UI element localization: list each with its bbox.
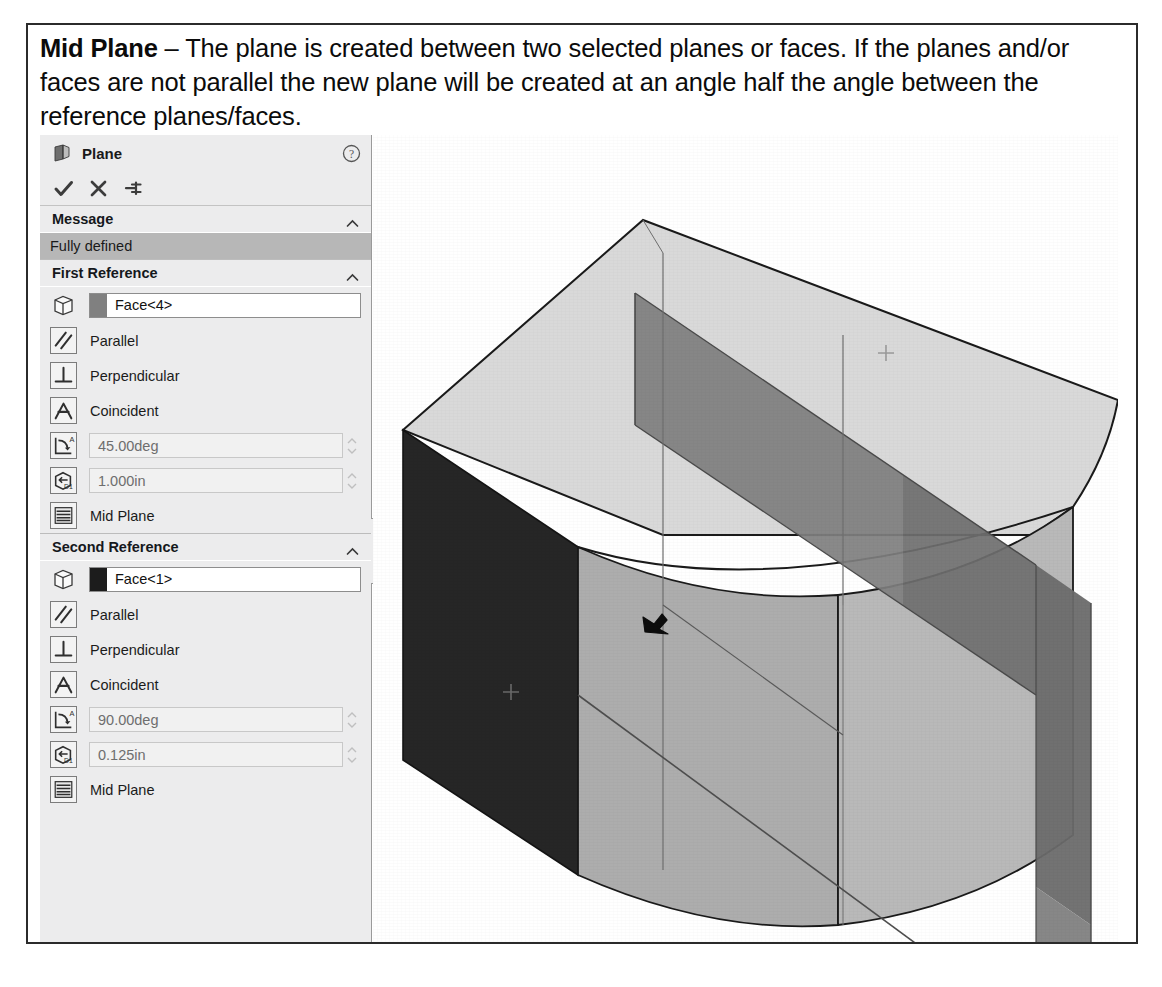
svg-text:A: A xyxy=(69,435,74,444)
plane-icon xyxy=(52,143,72,163)
section-header-second-reference[interactable]: Second Reference xyxy=(40,534,371,561)
scanned-page-frame: Mid Plane – The plane is created between… xyxy=(26,23,1138,944)
mid-plane-icon xyxy=(50,502,77,529)
angle-icon: A xyxy=(50,432,77,459)
first-reference-coincident-row[interactable]: Coincident xyxy=(40,393,371,428)
perpendicular-icon xyxy=(50,362,77,389)
second-reference-angle-row: A 90.00deg xyxy=(40,702,371,737)
first-reference-perpendicular-label: Perpendicular xyxy=(90,368,179,384)
offset-distance-icon: D1 xyxy=(50,741,77,768)
solid-left-dark-face xyxy=(403,430,578,875)
caption-body: The plane is created between two selecte… xyxy=(40,34,1069,130)
second-reference-parallel-label: Parallel xyxy=(90,607,138,623)
section-title-message: Message xyxy=(52,211,113,227)
section-header-first-reference[interactable]: First Reference xyxy=(40,260,371,287)
first-reference-coincident-label: Coincident xyxy=(90,403,159,419)
selection-color-swatch xyxy=(90,568,107,591)
first-reference-face-value: Face<4> xyxy=(107,297,172,313)
first-reference-angle-row: A 45.00deg xyxy=(40,428,371,463)
help-question-icon[interactable]: ? xyxy=(342,144,361,163)
panel-title: Plane xyxy=(82,145,122,162)
second-reference-parallel-row[interactable]: Parallel xyxy=(40,597,371,632)
second-reference-coincident-label: Coincident xyxy=(90,677,159,693)
perpendicular-icon xyxy=(50,636,77,663)
first-reference-angle-spinner[interactable] xyxy=(345,433,361,458)
first-reference-selection-row: Face<4> xyxy=(40,287,371,323)
first-reference-mid-plane-label: Mid Plane xyxy=(90,508,154,524)
svg-text:?: ? xyxy=(349,147,354,159)
first-reference-parallel-row[interactable]: Parallel xyxy=(40,323,371,358)
second-reference-perpendicular-row[interactable]: Perpendicular xyxy=(40,632,371,667)
solid-front-face xyxy=(578,547,838,926)
section-title-second-reference: Second Reference xyxy=(52,539,179,555)
coincident-icon xyxy=(50,671,77,698)
pushpin-icon[interactable] xyxy=(123,178,144,199)
second-reference-perpendicular-label: Perpendicular xyxy=(90,642,179,658)
chevron-up-icon[interactable] xyxy=(346,269,359,278)
chevron-up-icon[interactable] xyxy=(346,543,359,552)
second-reference-angle-spinner[interactable] xyxy=(345,707,361,732)
second-reference-selection-row: Face<1> xyxy=(40,561,371,597)
parallel-icon xyxy=(50,601,77,628)
panel-action-toolbar xyxy=(40,171,371,206)
plane-property-manager-panel: Plane ? xyxy=(40,135,372,942)
first-reference-perpendicular-row[interactable]: Perpendicular xyxy=(40,358,371,393)
selection-color-swatch xyxy=(90,294,107,317)
svg-text:A: A xyxy=(69,709,74,718)
first-reference-angle-input[interactable]: 45.00deg xyxy=(89,433,343,458)
angle-icon: A xyxy=(50,706,77,733)
first-reference-mid-plane-row[interactable]: Mid Plane xyxy=(40,498,371,533)
parallel-icon xyxy=(50,327,77,354)
svg-text:D1: D1 xyxy=(64,757,73,764)
offset-distance-icon: D1 xyxy=(50,467,77,494)
first-reference-offset-spinner[interactable] xyxy=(345,468,361,493)
first-reference-face-field[interactable]: Face<4> xyxy=(89,293,361,318)
first-reference-parallel-label: Parallel xyxy=(90,333,138,349)
close-x-icon[interactable] xyxy=(88,178,109,199)
second-reference-offset-input[interactable]: 0.125in xyxy=(89,742,343,767)
caption-dash: – xyxy=(158,34,185,62)
second-reference-angle-input[interactable]: 90.00deg xyxy=(89,707,343,732)
face-cube-icon xyxy=(50,566,77,593)
mid-plane-icon xyxy=(50,776,77,803)
section-header-message[interactable]: Message xyxy=(40,206,371,233)
status-message-bar: Fully defined xyxy=(40,233,371,259)
second-reference-coincident-row[interactable]: Coincident xyxy=(40,667,371,702)
first-reference-offset-row: D1 1.000in xyxy=(40,463,371,498)
face-cube-icon xyxy=(50,292,77,319)
model-viewport[interactable] xyxy=(373,135,1118,942)
caption-term: Mid Plane xyxy=(40,34,158,62)
section-title-first-reference: First Reference xyxy=(52,265,158,281)
second-reference-face-value: Face<1> xyxy=(107,571,172,587)
second-reference-offset-spinner[interactable] xyxy=(345,742,361,767)
status-badge: Fully defined xyxy=(50,238,132,254)
coincident-icon xyxy=(50,397,77,424)
second-reference-offset-row: D1 0.125in xyxy=(40,737,371,772)
second-reference-mid-plane-row[interactable]: Mid Plane xyxy=(40,772,371,807)
chevron-up-icon[interactable] xyxy=(346,215,359,224)
figure-caption: Mid Plane – The plane is created between… xyxy=(40,31,1118,133)
mid-plane-sheet-vertical-band xyxy=(1036,565,1091,925)
second-reference-mid-plane-label: Mid Plane xyxy=(90,782,154,798)
first-reference-offset-input[interactable]: 1.000in xyxy=(89,468,343,493)
second-reference-face-field[interactable]: Face<1> xyxy=(89,567,361,592)
panel-title-bar: Plane ? xyxy=(40,135,371,171)
checkmark-icon[interactable] xyxy=(53,178,74,199)
mid-plane-3d-model xyxy=(373,135,1118,942)
svg-text:D1: D1 xyxy=(64,483,73,490)
